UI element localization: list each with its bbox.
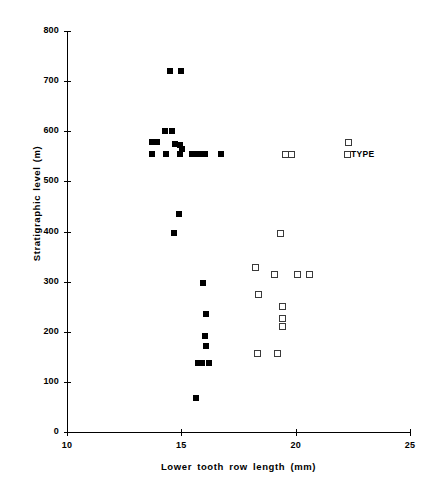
data-point-open	[255, 291, 262, 298]
data-point-open	[345, 139, 352, 146]
plot-area	[67, 31, 410, 432]
y-axis-title: Stratigraphic level (m)	[31, 94, 42, 314]
scatter-plot-figure: 0100200300400500600700800 10152025 TYPE …	[0, 0, 441, 500]
data-point-open	[271, 271, 278, 278]
data-point-filled	[193, 395, 199, 401]
data-point-open	[279, 323, 286, 330]
data-point-open	[279, 315, 286, 322]
x-tick-label-20: 20	[276, 440, 316, 450]
y-tick-label-800: 800	[25, 25, 59, 35]
data-point-open	[254, 350, 261, 357]
x-axis-title: Lower tooth row length (mm)	[67, 461, 410, 472]
y-tick-label-700: 700	[25, 75, 59, 85]
y-tick-label-0: 0	[25, 426, 59, 436]
data-point-filled	[202, 151, 208, 157]
x-tick-label-10: 10	[47, 440, 87, 450]
data-point-open	[306, 271, 313, 278]
data-point-filled	[163, 151, 169, 157]
x-tick-label-25: 25	[390, 440, 430, 450]
data-point-filled	[176, 211, 182, 217]
data-point-filled	[171, 230, 177, 236]
data-point-open	[274, 350, 281, 357]
x-tick-25	[410, 429, 411, 436]
data-point-open	[277, 230, 284, 237]
data-point-filled	[177, 151, 183, 157]
data-point-filled	[203, 311, 209, 317]
data-point-filled	[206, 360, 212, 366]
data-point-open	[344, 151, 351, 158]
y-tick-label-200: 200	[25, 326, 59, 336]
data-point-open	[294, 271, 301, 278]
x-tick-label-15: 15	[161, 440, 201, 450]
data-point-filled	[203, 343, 209, 349]
data-point-filled	[167, 68, 173, 74]
data-point-filled	[200, 280, 206, 286]
data-point-filled	[202, 333, 208, 339]
data-point-filled	[154, 139, 160, 145]
data-point-open	[252, 264, 259, 271]
data-point-filled	[162, 128, 168, 134]
data-point-filled	[178, 68, 184, 74]
data-point-open	[279, 303, 286, 310]
x-axis-line	[67, 432, 410, 433]
data-point-filled	[149, 151, 155, 157]
y-tick-label-100: 100	[25, 376, 59, 386]
type-annotation-label: TYPE	[351, 149, 374, 159]
data-point-filled	[218, 151, 224, 157]
data-point-open	[288, 151, 295, 158]
data-point-filled	[199, 360, 205, 366]
data-point-filled	[169, 128, 175, 134]
